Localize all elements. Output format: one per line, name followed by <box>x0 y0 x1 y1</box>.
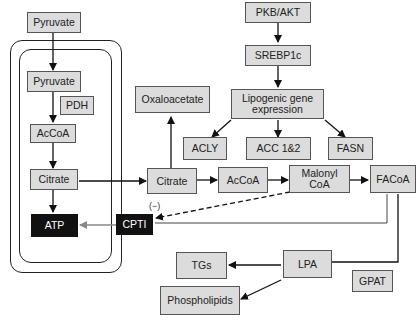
node-label: CPTI <box>123 219 147 230</box>
node-atp: ATP <box>31 214 78 237</box>
node-label: ATP <box>45 220 65 231</box>
node-label: PDH <box>66 100 88 111</box>
node-cpti: CPTI <box>116 214 153 235</box>
node-label: ACLY <box>192 143 219 154</box>
node-citrate-cytosol: Citrate <box>147 168 197 194</box>
node-citrate-mito: Citrate <box>30 169 78 190</box>
node-pyruvate-mito: Pyruvate <box>27 71 81 92</box>
node-tgs: TGs <box>176 252 227 279</box>
node-label: FACoA <box>376 174 409 185</box>
node-pdh: PDH <box>60 96 94 115</box>
node-label: AcCoA <box>37 128 70 139</box>
node-label: Phospholipids <box>167 295 232 306</box>
node-pyruvate-cytosol: Pyruvate <box>27 12 81 33</box>
node-label: AcCoA <box>227 175 260 186</box>
node-label: TGs <box>192 260 212 271</box>
node-acly: ACLY <box>183 137 227 160</box>
node-label: LPA <box>298 259 317 270</box>
node-oxaloacetate: Oxaloacetate <box>135 86 210 113</box>
node-lipogenic-gene-expression: Lipogenic gene expression <box>231 89 324 119</box>
node-label: ACC 1&2 <box>257 143 301 154</box>
node-label: Oxaloacetate <box>142 94 204 105</box>
node-label: PKB/AKT <box>256 7 300 18</box>
node-lpa: LPA <box>283 250 332 278</box>
node-acc-1-2: ACC 1&2 <box>246 137 311 160</box>
node-srebp1c: SREBP1c <box>245 45 311 66</box>
node-label: GPAT <box>359 276 386 287</box>
node-label: Pyruvate <box>33 76 74 87</box>
node-label: expression <box>252 104 303 115</box>
node-gpat: GPAT <box>352 270 393 292</box>
node-label: Citrate <box>39 174 70 185</box>
inhibition-label: (−) <box>149 201 160 211</box>
node-label: FASN <box>337 143 364 154</box>
node-facoa: FACoA <box>370 165 416 193</box>
node-label: CoA <box>309 179 329 190</box>
node-accoa-cytosol: AcCoA <box>218 167 268 193</box>
node-pkb-akt: PKB/AKT <box>245 2 311 23</box>
node-malonyl-coa: Malonyl CoA <box>289 165 350 193</box>
node-fasn: FASN <box>328 137 373 160</box>
node-label: Citrate <box>157 176 188 187</box>
node-accoa-mito: AcCoA <box>30 124 76 143</box>
node-label: SREBP1c <box>255 50 302 61</box>
node-phospholipids: Phospholipids <box>160 286 240 315</box>
node-label: Pyruvate <box>33 17 74 28</box>
